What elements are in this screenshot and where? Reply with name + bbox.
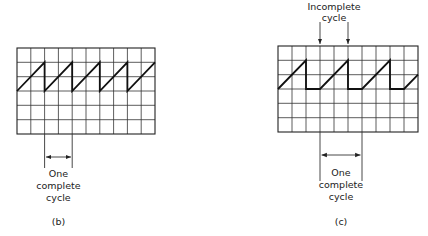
- oscilloscope-grid-b: [17, 48, 155, 134]
- top-annotation-line1-c: Incomplete: [307, 1, 360, 12]
- caption-c: (c): [335, 216, 348, 227]
- annotation-line3-c: cycle: [329, 191, 354, 202]
- annotation-line1-b: One: [49, 168, 68, 179]
- panel-b: One complete cycle (b): [17, 48, 155, 227]
- top-annotation-line2-c: cycle: [322, 12, 347, 23]
- annotation-line2-b: complete: [36, 180, 81, 191]
- panel-c: Incomplete cycle One complete cycle: [278, 1, 418, 227]
- annotation-line3-b: cycle: [46, 192, 71, 203]
- annotation-line2-c: complete: [319, 179, 364, 190]
- caption-b: (b): [52, 216, 65, 227]
- annotation-line1-c: One: [331, 167, 350, 178]
